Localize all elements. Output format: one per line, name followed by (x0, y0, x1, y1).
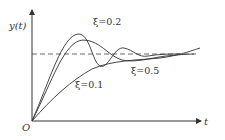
curve-label-xi-0.1: ξ=0.1 (75, 79, 103, 90)
x-axis-label: t (204, 116, 209, 127)
origin-label: O (22, 122, 30, 133)
curve-xi-0.2 (32, 34, 180, 121)
curve-xi-0.5 (32, 40, 194, 121)
curve-label-xi-0.5: ξ=0.5 (131, 65, 159, 76)
step-response-diagram: y(t) t O ξ=0.2 ξ=0.5 ξ=0.1 (0, 0, 225, 140)
curve-label-xi-0.2: ξ=0.2 (93, 16, 121, 27)
y-axis-label: y(t) (8, 20, 27, 31)
